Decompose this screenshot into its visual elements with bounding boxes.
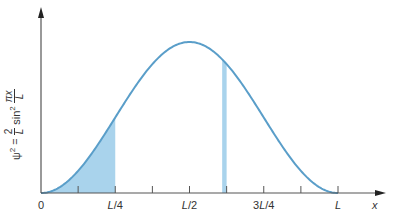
x-axis-label: x — [372, 199, 378, 211]
x-tick-label: L/4 — [108, 199, 123, 211]
y-axis-arrow-icon — [38, 7, 44, 18]
x-tick-label: 3L/4 — [253, 199, 274, 211]
x-tick-label: L — [335, 199, 341, 211]
chart-canvas — [0, 0, 396, 220]
shaded-area-0-to-L4 — [41, 118, 115, 194]
shaded-strip — [222, 59, 226, 193]
y-axis-label: ψ2 = 2L sin2 πxL — [4, 89, 25, 160]
x-tick-label: 0 — [38, 199, 44, 211]
x-axis-arrow-icon — [375, 190, 386, 196]
x-tick-label: L/2 — [182, 199, 197, 211]
